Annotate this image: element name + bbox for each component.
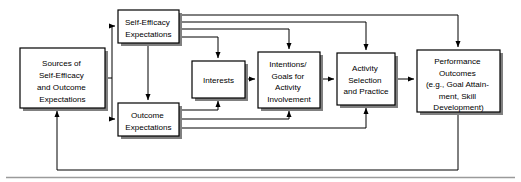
performance-line-1: Performance — [434, 57, 481, 66]
outcome-line-2: Expectations — [125, 123, 171, 132]
intentions-line-2: Goals for — [271, 72, 304, 81]
outcome-expectations: Outcome Expectations — [118, 103, 182, 139]
sources-line-3: and Outcome — [37, 83, 86, 92]
self-efficacy-expectations: Self-Efficacy Expectations — [118, 10, 182, 46]
interests: Interests — [192, 61, 248, 101]
activity-line-1: Activity — [352, 64, 379, 73]
scct-diagram: Sources of Self-Efficacy and Outcome Exp… — [0, 0, 521, 182]
sources-of-self-efficacy-and-outcome-expectations: Sources of Self-Efficacy and Outcome Exp… — [20, 48, 108, 111]
svg-text:Performance Outcomes: Performance Outcomes (e.g., Goal Attain-… — [426, 57, 491, 112]
self-efficacy-line-2: Expectations — [125, 30, 171, 39]
self-efficacy-line-1: Self-Efficacy — [125, 18, 171, 27]
performance-line-5: Development) — [433, 103, 484, 112]
sources-line-1: Sources of — [42, 59, 81, 68]
performance-line-2: Outcomes — [439, 69, 476, 78]
sources-line-2: Self-Efficacy — [39, 71, 85, 80]
intentions-line-3: Activity — [275, 83, 302, 92]
activity-line-3: and Practice — [344, 87, 389, 96]
outcome-line-1: Outcome — [131, 111, 164, 120]
intentions-line-4: Involvement — [267, 95, 311, 104]
intentions-goals-for-activity-involvement: Intentions/ Goals for Activity Involveme… — [258, 52, 323, 111]
activity-selection-and-practice: Activity Selection and Practice — [337, 53, 398, 108]
performance-line-3: (e.g., Goal Attain- — [426, 80, 489, 89]
performance-outcomes: Performance Outcomes (e.g., Goal Attain-… — [417, 50, 503, 115]
sources-line-4: Expectations — [39, 95, 85, 104]
activity-line-2: Selection — [348, 76, 381, 85]
diagram-canvas: Sources of Self-Efficacy and Outcome Exp… — [0, 0, 521, 182]
svg-text:Interests: Interests — [203, 76, 234, 85]
interests-line-1: Interests — [203, 76, 234, 85]
performance-line-4: ment, Skill — [439, 92, 477, 101]
intentions-line-1: Intentions/ — [269, 60, 307, 69]
